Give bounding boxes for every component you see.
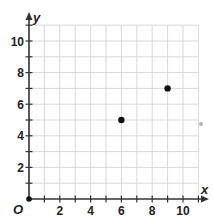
x-axis-label: x: [200, 182, 209, 197]
y-tick-label: 2: [17, 161, 24, 175]
y-axis-label: y: [32, 10, 41, 25]
y-tick-label: 6: [17, 98, 24, 112]
y-tick-label: 8: [17, 66, 24, 80]
stray-dot: [199, 122, 203, 126]
tick-labels: 246810246810: [11, 35, 190, 219]
x-tick-label: 8: [149, 204, 156, 218]
y-tick-label: 10: [11, 35, 25, 49]
x-tick-label: 6: [118, 204, 125, 218]
grid-lines: [29, 25, 198, 199]
data-points: [26, 85, 171, 202]
x-tick-label: 2: [56, 204, 63, 218]
axes: [26, 12, 210, 203]
coordinate-plane: 246810246810 x y O: [0, 0, 213, 222]
x-tick-label: 10: [176, 204, 190, 218]
data-point: [118, 117, 124, 123]
y-tick-label: 4: [17, 129, 24, 143]
ticks: [26, 25, 199, 202]
y-axis-arrow-icon: [26, 12, 33, 20]
origin-label: O: [13, 202, 23, 217]
data-point: [164, 85, 170, 91]
data-point: [26, 196, 32, 202]
x-tick-label: 4: [87, 204, 94, 218]
